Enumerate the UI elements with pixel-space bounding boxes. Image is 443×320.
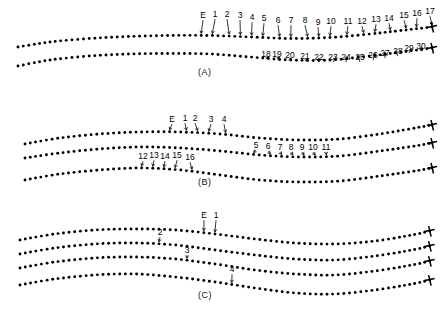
annotation-label-text: 29 — [404, 43, 414, 53]
annotation-label-text: 3 — [185, 245, 190, 255]
annotation-label-text: 10 — [308, 142, 318, 152]
annotation-label-text: 16 — [412, 8, 422, 18]
annotation-label-text: E — [200, 10, 206, 20]
annotation-19: 19 — [272, 49, 282, 60]
annotation-label-text: 2 — [193, 113, 198, 123]
annotation-label-text: 1 — [183, 113, 188, 123]
figure-container: E123456789101112131415161718192021222324… — [0, 0, 443, 320]
annotation-label-text: 17 — [425, 6, 435, 16]
annotation-23: 23 — [328, 52, 338, 62]
annotation-label-text: 2 — [158, 227, 163, 237]
annotation-label-text: 7 — [278, 142, 283, 152]
annotation-label-text: 10 — [326, 16, 336, 26]
annotation-label-text: 8 — [289, 142, 294, 152]
annotation-label-text: 3 — [209, 114, 214, 124]
annotation-label-text: 9 — [300, 142, 305, 152]
annotation-label-text: 11 — [344, 16, 353, 26]
annotation-label-text: 1 — [214, 210, 219, 220]
annotation-label-text: 14 — [384, 13, 394, 23]
annotation-30: 30 — [416, 41, 426, 51]
annotation-20: 20 — [285, 50, 295, 61]
annotation-label-text: 4 — [250, 12, 255, 22]
annotation-label-text: 3 — [238, 10, 243, 20]
annotation-label-text: 2 — [225, 9, 230, 19]
panel-caption-a: (A) — [198, 67, 212, 77]
annotation-label-text: 4 — [230, 264, 235, 274]
annotation-22: 22 — [314, 52, 324, 62]
annotation-label-text: 13 — [371, 14, 381, 24]
annotation-label-text: 5 — [254, 140, 259, 150]
annotation-label-text: 12 — [357, 16, 367, 26]
annotation-21: 21 — [300, 51, 310, 61]
annotation-label-text: 15 — [172, 150, 182, 160]
annotation-label-text: 14 — [160, 151, 170, 161]
panel-caption-c: (C) — [198, 290, 212, 300]
annotation-label-text: 13 — [149, 150, 159, 160]
annotation-label-text: 28 — [393, 46, 403, 56]
annotation-label-text: 23 — [328, 52, 338, 62]
annotation-label-text: 8 — [303, 15, 308, 25]
annotation-label-text: 12 — [138, 151, 148, 161]
annotation-label-text: 9 — [316, 17, 321, 27]
panel-caption-b: (B) — [198, 177, 212, 187]
annotation-label-text: 4 — [222, 114, 227, 124]
annotation-label-text: 6 — [266, 141, 271, 151]
annotation-label-text: E — [201, 210, 207, 220]
annotation-29: 29 — [404, 43, 414, 53]
annotation-label-text: 11 — [322, 142, 331, 152]
annotation-label-text: E — [169, 114, 175, 124]
annotation-label-text: 15 — [399, 10, 409, 20]
annotation-label-text: 1 — [213, 9, 218, 19]
annotation-label-text: 16 — [185, 152, 195, 162]
annotation-18: 18 — [261, 49, 271, 60]
annotation-28: 28 — [393, 46, 403, 56]
annotation-26: 26 — [368, 50, 378, 60]
annotation-25: 25 — [355, 52, 365, 62]
annotation-27: 27 — [380, 48, 390, 58]
annotation-label-text: 6 — [276, 15, 281, 25]
figure-canvas: E123456789101112131415161718192021222324… — [0, 0, 443, 320]
annotation-24: 24 — [341, 52, 351, 62]
annotation-label-text: 7 — [289, 15, 294, 25]
figure-background — [0, 0, 443, 320]
annotation-label-text: 5 — [262, 13, 267, 23]
